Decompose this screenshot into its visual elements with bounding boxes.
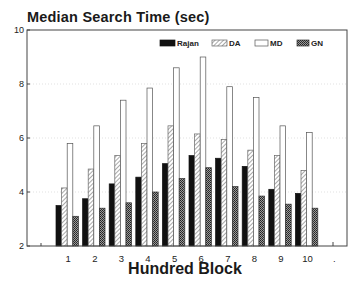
bar-rajan-8: [242, 166, 248, 246]
legend-label-rajan: Rajan: [177, 39, 199, 48]
bar-md-4: [147, 88, 153, 246]
x-axis-label: Hundred Block: [0, 260, 359, 278]
bar-da-8: [248, 150, 254, 246]
bar-md-1: [67, 143, 73, 246]
bar-rajan-3: [109, 184, 115, 246]
bar-gn-2: [99, 208, 105, 246]
bar-rajan-1: [56, 206, 62, 247]
bar-da-4: [141, 143, 147, 246]
y-tick-label: 4: [19, 187, 24, 197]
bar-da-5: [168, 126, 174, 246]
bar-da-9: [274, 156, 280, 246]
bar-md-7: [227, 87, 233, 246]
legend: RajanDAMDGN: [160, 39, 323, 48]
bar-md-9: [280, 126, 286, 246]
legend-label-md: MD: [270, 39, 283, 48]
bar-md-8: [253, 98, 259, 247]
y-tick-label: 10: [14, 25, 24, 35]
bar-rajan-2: [83, 199, 89, 246]
bar-gn-10: [312, 208, 318, 246]
y-tick-label: 6: [19, 133, 24, 143]
bar-chart: 246810 12345678910. RajanDAMDGN: [0, 0, 359, 290]
bar-gn-9: [286, 204, 292, 246]
bar-rajan-7: [216, 158, 222, 246]
y-tick-label: 8: [19, 79, 24, 89]
legend-swatch-da: [212, 40, 227, 46]
bar-da-1: [62, 188, 68, 246]
bar-gn-6: [206, 168, 212, 246]
legend-label-da: DA: [229, 39, 241, 48]
bar-gn-1: [73, 216, 79, 246]
bar-da-7: [221, 139, 227, 246]
bar-gn-7: [232, 187, 238, 246]
bar-rajan-10: [295, 193, 301, 246]
bar-md-10: [307, 133, 313, 246]
bar-md-6: [200, 57, 206, 246]
bar-da-2: [88, 169, 94, 246]
bar-md-5: [174, 68, 180, 246]
legend-swatch-gn: [297, 40, 309, 46]
bar-da-6: [195, 134, 201, 246]
legend-swatch-md: [255, 40, 268, 46]
legend-label-gn: GN: [311, 39, 323, 48]
bar-gn-4: [153, 192, 159, 246]
bar-md-3: [120, 100, 126, 246]
gridlines: [27, 84, 347, 192]
bar-gn-5: [179, 179, 185, 247]
bar-gn-3: [126, 203, 132, 246]
bar-da-10: [301, 170, 307, 246]
bar-gn-8: [259, 196, 265, 246]
legend-swatch-rajan: [160, 40, 175, 46]
bar-rajan-9: [269, 189, 275, 246]
bar-rajan-5: [162, 164, 168, 246]
bar-rajan-6: [189, 156, 195, 246]
y-tick-label: 2: [19, 241, 24, 251]
bars: [56, 57, 318, 246]
bar-rajan-4: [136, 177, 142, 246]
y-axis-ticks: 246810: [14, 25, 30, 251]
bar-md-2: [94, 126, 100, 246]
bar-da-3: [115, 156, 121, 246]
